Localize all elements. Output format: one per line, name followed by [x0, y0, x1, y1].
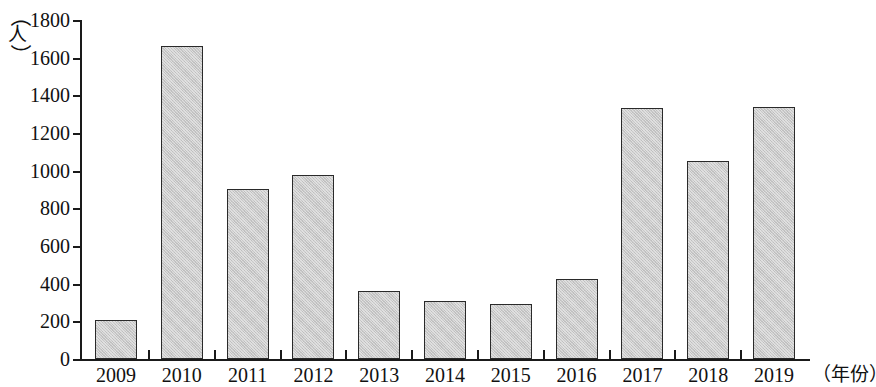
y-axis-tick: [73, 208, 81, 210]
x-axis-tick: [674, 350, 676, 359]
bar: [95, 320, 137, 359]
plot-area: 180016001400120010008006004002000: [80, 20, 810, 360]
y-axis-tick: [73, 133, 81, 135]
x-axis-tick: [609, 350, 611, 359]
y-axis-tick: [73, 58, 81, 60]
y-axis-tick: [73, 95, 81, 97]
x-axis-tick: [411, 350, 413, 359]
y-axis-tick-label: 600: [10, 236, 70, 256]
y-axis-tick: [73, 321, 81, 323]
y-axis-tick-label: 800: [10, 198, 70, 218]
x-axis-line: [80, 359, 810, 361]
y-axis-tick: [73, 171, 81, 173]
bar-chart: （ 人 ） 180016001400120010008006004002000 …: [0, 0, 876, 387]
y-axis-tick: [73, 246, 81, 248]
y-axis-tick: [73, 20, 81, 22]
bar: [358, 291, 400, 359]
y-axis-tick-label: 200: [10, 311, 70, 331]
y-axis-tick-label: 1000: [10, 161, 70, 181]
bar: [227, 189, 269, 359]
y-axis-tick-label: 1400: [10, 85, 70, 105]
x-axis-tick: [345, 350, 347, 359]
bar: [292, 175, 334, 359]
x-axis-unit-label: （年份）: [812, 364, 876, 386]
y-axis-tick-label: 0: [10, 349, 70, 369]
x-axis-tick: [280, 350, 282, 359]
y-axis-tick-label: 1200: [10, 123, 70, 143]
x-axis-tick: [148, 350, 150, 359]
x-axis-tick: [214, 350, 216, 359]
y-axis-tick-label: 1600: [10, 48, 70, 68]
bar: [621, 108, 663, 359]
bar: [687, 161, 729, 359]
y-axis-tick: [73, 284, 81, 286]
bar: [161, 46, 203, 359]
y-axis-tick-label: 1800: [10, 10, 70, 30]
x-axis-tick-label: 2019: [734, 364, 814, 386]
y-axis-tick-label: 400: [10, 274, 70, 294]
x-axis-tick: [477, 350, 479, 359]
x-axis-tick: [543, 350, 545, 359]
bar: [490, 304, 532, 359]
x-axis-tick: [740, 350, 742, 359]
bar: [753, 107, 795, 359]
bar: [556, 279, 598, 359]
bar: [424, 301, 466, 359]
y-axis-line: [80, 20, 82, 361]
y-axis-tick: [73, 359, 81, 361]
